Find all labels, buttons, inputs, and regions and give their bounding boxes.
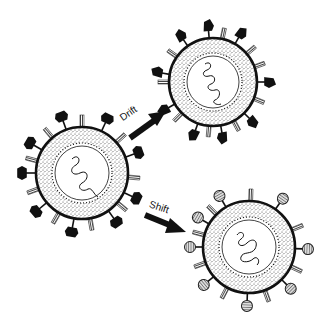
virus-original	[18, 111, 144, 237]
shift-arrow	[145, 215, 186, 233]
virus-drift	[151, 20, 275, 144]
drift-arrow	[130, 111, 166, 138]
virus-shift	[185, 188, 314, 311]
antigenic-variation-diagram	[0, 0, 336, 326]
